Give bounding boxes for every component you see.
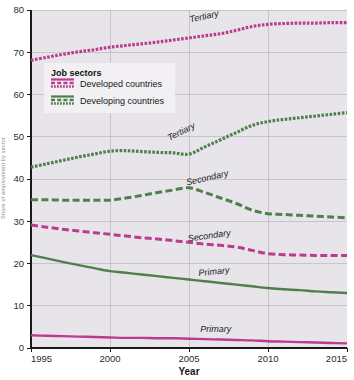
legend-item-label: Developing countries	[80, 96, 165, 106]
y-tick-label: 0	[19, 342, 24, 353]
x-tick-label: 2010	[257, 353, 278, 364]
x-tick-label: 2000	[99, 353, 120, 364]
y-tick-label: 30	[13, 216, 24, 227]
x-tick-label: 1995	[31, 353, 52, 364]
chart-container: 01020304050607080 19952000200520102015 T…	[0, 0, 354, 380]
legend-title: Job sectors	[51, 68, 102, 78]
y-tick-label: 10	[13, 300, 24, 311]
y-tick-label: 70	[13, 47, 24, 58]
y-tick-label: 60	[13, 89, 24, 100]
x-tick-label: 2015	[326, 353, 347, 364]
x-tick-label: 2005	[178, 353, 199, 364]
y-tick-label: 20	[13, 258, 24, 269]
y-axis-title: Share of employment by sector	[0, 137, 6, 219]
line-chart: 01020304050607080 19952000200520102015 T…	[0, 0, 354, 380]
y-tick-label: 80	[13, 4, 24, 15]
y-tick-label: 50	[13, 131, 24, 142]
legend-item-label: Developed countries	[80, 79, 163, 89]
x-axis-title: Year	[178, 366, 199, 377]
y-tick-label: 40	[13, 173, 24, 184]
legend[interactable]: Job sectorsDeveloped countriesDeveloping…	[44, 63, 175, 113]
series-annotation: Primary	[200, 324, 231, 334]
